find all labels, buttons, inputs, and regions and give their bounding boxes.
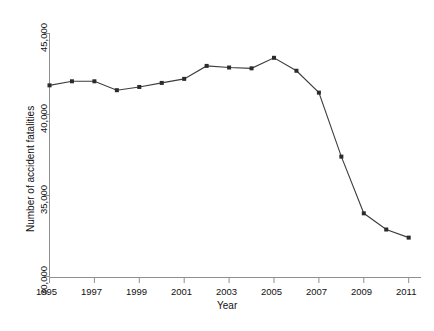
y-axis-title: Number of accident fatalities	[25, 106, 36, 232]
data-point-marker	[250, 66, 254, 70]
data-point-marker	[92, 79, 96, 83]
data-point-marker	[227, 66, 231, 70]
chart-container: 45,000 40,000 35,000 30,000 1995 1997 19…	[0, 0, 434, 331]
data-point-marker	[182, 77, 186, 81]
y-tick-label-35000: 35,000	[38, 185, 49, 214]
data-point-marker	[115, 88, 119, 92]
x-tick-label-1997: 1997	[81, 286, 102, 297]
line-chart-plot	[0, 0, 434, 331]
x-axis-title: Year	[217, 300, 237, 311]
x-tick-label-1995: 1995	[36, 286, 57, 297]
data-point-marker	[362, 211, 366, 215]
y-tick-label-40000: 40,000	[38, 104, 49, 133]
y-axis-ticks	[44, 34, 50, 277]
data-series-line	[50, 58, 409, 238]
x-axis-ticks	[50, 278, 409, 284]
data-point-marker	[205, 64, 209, 68]
data-point-marker	[48, 83, 52, 87]
x-tick-label-2003: 2003	[216, 286, 237, 297]
x-tick-label-2009: 2009	[351, 286, 372, 297]
data-point-marker	[384, 228, 388, 232]
x-tick-label-2005: 2005	[261, 286, 282, 297]
data-point-marker	[407, 236, 411, 240]
data-point-marker	[137, 85, 141, 89]
x-tick-label-2007: 2007	[306, 286, 327, 297]
y-tick-label-45000: 45,000	[38, 23, 49, 52]
data-point-marker	[339, 155, 343, 159]
x-tick-label-2001: 2001	[171, 286, 192, 297]
x-tick-label-2011: 2011	[396, 286, 416, 297]
data-point-marker	[317, 91, 321, 95]
data-point-marker	[294, 69, 298, 73]
x-tick-label-1999: 1999	[126, 286, 147, 297]
data-point-marker	[272, 56, 276, 60]
data-point-marker	[160, 81, 164, 85]
data-point-markers	[48, 56, 411, 240]
data-point-marker	[70, 79, 74, 83]
